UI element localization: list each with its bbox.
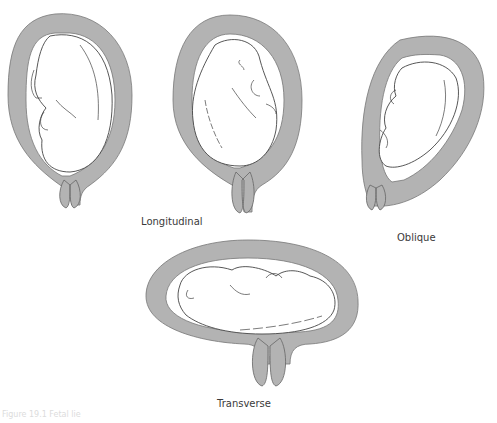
label-transverse: Transverse <box>217 398 271 409</box>
panel-oblique <box>362 36 484 210</box>
panel-longitudinal-1 <box>8 14 132 208</box>
fetus-icon <box>35 35 112 172</box>
label-oblique: Oblique <box>397 232 436 243</box>
label-longitudinal: Longitudinal <box>141 216 203 227</box>
fetus-icon <box>178 267 335 334</box>
figure-caption: Figure 19.1 Fetal lie <box>2 410 81 419</box>
fetal-lie-diagram <box>0 0 497 423</box>
panel-longitudinal-2 <box>173 15 302 213</box>
panel-transverse <box>146 240 358 386</box>
